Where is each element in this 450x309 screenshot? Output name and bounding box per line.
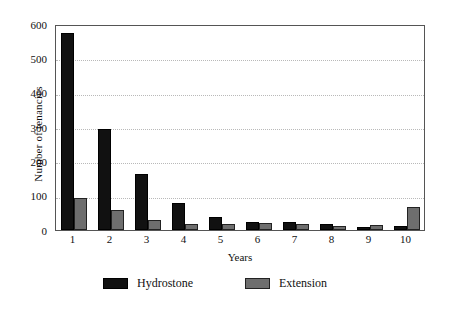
bar-group	[389, 26, 426, 230]
x-axis-tick-label: 7	[292, 233, 298, 245]
bar-group	[241, 26, 278, 230]
x-axis-tick-label: 5	[218, 233, 224, 245]
x-axis-tick-label: 3	[144, 233, 150, 245]
bar-group	[352, 26, 389, 230]
bar-extension	[111, 210, 124, 230]
x-axis-tick-label: 6	[255, 233, 261, 245]
bar-group	[204, 26, 241, 230]
y-axis-tick-label: 200	[31, 157, 48, 168]
bar-hydrostone	[320, 224, 333, 230]
bar-hydrostone	[209, 217, 222, 230]
legend-label: Extension	[279, 276, 327, 291]
bar-hydrostone	[172, 203, 185, 230]
bar-extension	[185, 224, 198, 230]
x-axis-tick-label: 1	[70, 233, 76, 245]
bar-extension	[407, 207, 420, 230]
legend-item-hydrostone: Hydrostone	[103, 274, 193, 292]
bar-hydrostone	[283, 222, 296, 230]
bar-hydrostone	[61, 33, 74, 230]
y-axis-tick-label: 0	[42, 226, 48, 237]
chart-legend: HydrostoneExtension	[55, 274, 425, 296]
bar-group	[130, 26, 167, 230]
y-axis-tick-label: 400	[31, 88, 48, 99]
x-axis-title: Years	[55, 251, 425, 263]
bar-hydrostone	[246, 222, 259, 230]
bar-extension	[333, 226, 346, 230]
x-axis-tick-label: 4	[181, 233, 187, 245]
plot-area	[55, 25, 425, 231]
x-axis-tick-label: 2	[107, 233, 113, 245]
bar-extension	[296, 224, 309, 230]
bar-group	[278, 26, 315, 230]
bar-group	[315, 26, 352, 230]
y-axis-tick-label: 300	[31, 123, 48, 134]
legend-swatch-icon	[245, 278, 270, 289]
bar-group	[56, 26, 93, 230]
bar-hydrostone	[98, 129, 111, 230]
x-axis-tick-labels: 12345678910	[55, 233, 425, 251]
bar-extension	[259, 223, 272, 230]
legend-item-extension: Extension	[245, 274, 327, 292]
y-axis-tick-labels: 0100200300400500600	[0, 0, 52, 309]
x-axis-tick-label: 8	[329, 233, 335, 245]
bar-chart-figure: Number of tenancies 0100200300400500600 …	[0, 0, 450, 309]
legend-label: Hydrostone	[137, 276, 193, 291]
y-axis-tick-label: 500	[31, 54, 48, 65]
plot-inner	[56, 26, 424, 230]
y-axis-tick-label: 600	[31, 20, 48, 31]
x-axis-tick-label: 10	[400, 233, 411, 245]
y-axis-tick-label: 100	[31, 191, 48, 202]
x-axis-tick-label: 9	[366, 233, 372, 245]
bar-hydrostone	[394, 226, 407, 230]
legend-swatch-icon	[103, 278, 128, 289]
bar-group	[167, 26, 204, 230]
bar-hydrostone	[135, 174, 148, 230]
bar-group	[93, 26, 130, 230]
bar-extension	[222, 224, 235, 230]
bar-extension	[74, 198, 87, 230]
bar-extension	[148, 220, 161, 230]
bar-extension	[370, 225, 383, 230]
bar-hydrostone	[357, 227, 370, 230]
